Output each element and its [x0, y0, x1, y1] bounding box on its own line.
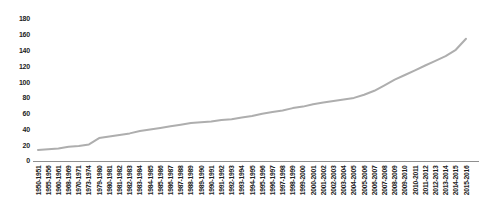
- x-tick-label: 2005-2006: [361, 165, 368, 195]
- x-tick-label: 1960-1961: [55, 165, 62, 195]
- y-tick-label: 120: [19, 63, 30, 70]
- x-tick-label: 2014-2015: [452, 165, 459, 195]
- y-tick-label: 140: [19, 47, 30, 54]
- x-tick-label: 1981-1982: [116, 165, 123, 195]
- x-tick-label: 2000-2001: [310, 165, 317, 195]
- x-tick-label: 2006-2007: [371, 165, 378, 195]
- x-tick-label: 1994-1995: [249, 165, 256, 195]
- x-tick-label: 2015-2016: [463, 165, 470, 195]
- y-tick-label: 80: [23, 94, 31, 101]
- x-tick-label: 1985-1986: [157, 165, 164, 195]
- x-tick-label: 1998-1999: [289, 165, 296, 195]
- x-tick-label: 1988-1989: [187, 165, 194, 195]
- x-tick-label: 1997-1998: [279, 165, 286, 195]
- x-tick-label: 2007-2008: [381, 165, 388, 195]
- y-tick-label: 0: [26, 157, 30, 164]
- line-chart: 020406080100120140160180 1950-19511955-1…: [0, 0, 479, 218]
- x-tick-label: 1993-1994: [238, 165, 245, 195]
- x-tick-label: 1992-1993: [228, 165, 235, 195]
- x-tick-label: 1995-1996: [259, 165, 266, 195]
- x-tick-label: 2001-2002: [320, 165, 327, 195]
- x-tick-label: 1955-1956: [45, 165, 52, 195]
- x-tick-label: 2008-2009: [391, 165, 398, 195]
- y-tick-label: 180: [19, 15, 30, 22]
- x-tick-label: 1999-2000: [299, 165, 306, 195]
- y-axis-labels: 020406080100120140160180: [19, 15, 30, 164]
- y-tick-label: 100: [19, 79, 30, 86]
- line-chart-svg: 020406080100120140160180 1950-19511955-1…: [0, 0, 479, 218]
- data-line: [38, 39, 466, 150]
- x-tick-label: 1984-1985: [147, 165, 154, 195]
- y-tick-label: 20: [23, 142, 31, 149]
- x-tick-label: 2012-2013: [432, 165, 439, 195]
- x-tick-label: 2004-2005: [350, 165, 357, 195]
- x-tick-label: 1950-1951: [35, 165, 42, 195]
- x-tick-label: 1991-1992: [218, 165, 225, 195]
- y-tick-label: 60: [23, 110, 31, 117]
- x-tick-label: 2013-2014: [442, 165, 449, 195]
- x-tick-label: 2003-2004: [340, 165, 347, 195]
- y-tick-label: 40: [23, 126, 31, 133]
- x-tick-label: 1983-1984: [136, 165, 143, 195]
- y-tick-label: 160: [19, 31, 30, 38]
- x-tick-label: 2011-2012: [422, 165, 429, 195]
- x-tick-label: 1990-1991: [208, 165, 215, 195]
- x-tick-label: 1979-1980: [96, 165, 103, 195]
- x-tick-label: 2010-2011: [412, 165, 419, 195]
- x-tick-label: 1982-1983: [126, 165, 133, 195]
- x-tick-label: 1987-1988: [177, 165, 184, 195]
- x-axis-labels: 1950-19511955-19561960-19611968-19691970…: [35, 165, 470, 195]
- x-tick-label: 1996-1997: [269, 165, 276, 195]
- x-tick-label: 1986-1987: [167, 165, 174, 195]
- x-tick-label: 1968-1969: [65, 165, 72, 195]
- x-tick-label: 2009-2010: [401, 165, 408, 195]
- x-tick-label: 1973-1974: [85, 165, 92, 195]
- x-tick-label: 1970-1971: [75, 165, 82, 195]
- x-tick-label: 1989-1990: [198, 165, 205, 195]
- x-tick-label: 1980-1981: [106, 165, 113, 195]
- x-tick-label: 2002-2003: [330, 165, 337, 195]
